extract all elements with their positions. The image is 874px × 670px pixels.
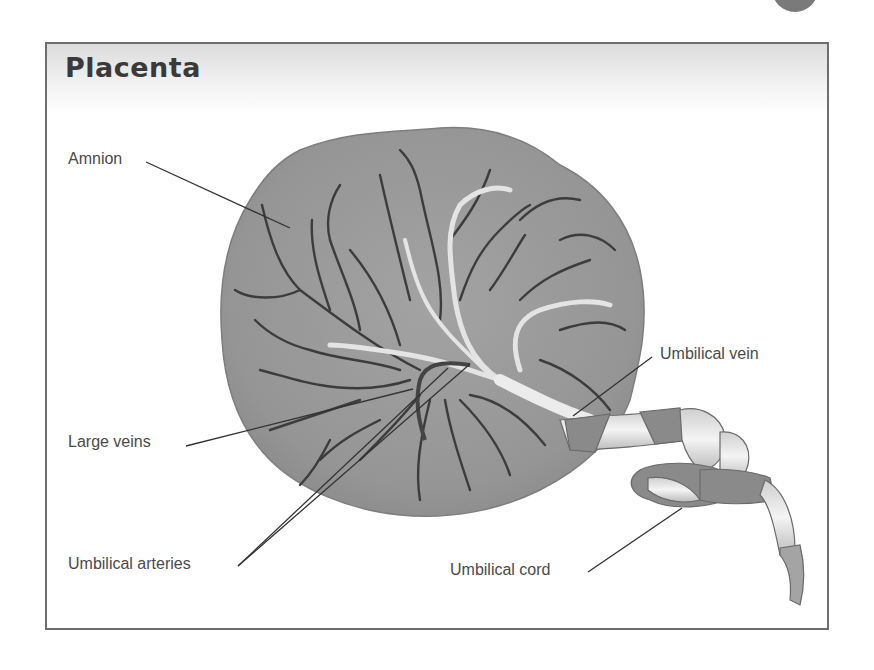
umbilical-cord-drawing — [560, 408, 804, 605]
leader-line-umbilical-cord — [588, 508, 682, 572]
label-umbilical-cord: Umbilical cord — [450, 561, 550, 579]
label-umbilical-vein: Umbilical vein — [660, 345, 759, 363]
label-amnion: Amnion — [68, 150, 122, 168]
label-umbilical-arteries: Umbilical arteries — [68, 555, 191, 573]
placenta-disc — [221, 128, 644, 517]
label-large-veins: Large veins — [68, 433, 151, 451]
